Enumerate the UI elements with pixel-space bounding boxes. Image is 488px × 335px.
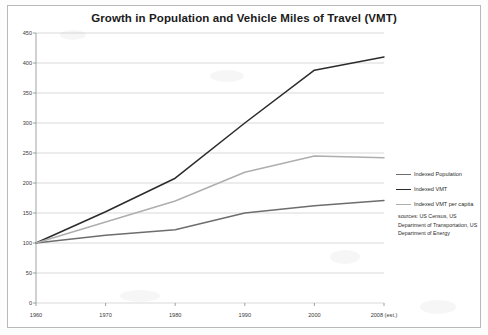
x-tick-label: 1980 bbox=[169, 312, 181, 318]
series-line-1 bbox=[36, 57, 384, 243]
y-tick-label: 50 bbox=[2, 270, 32, 276]
x-tick-label: 2000 bbox=[308, 312, 320, 318]
legend-color-swatch bbox=[396, 204, 411, 205]
legend-label: Indexed VMT per capita bbox=[414, 201, 473, 207]
y-tick-label: 400 bbox=[2, 60, 32, 66]
chart-legend: Indexed PopulationIndexed VMTIndexed VMT… bbox=[396, 170, 486, 215]
series-line-0 bbox=[36, 200, 384, 243]
legend-item: Indexed Population bbox=[396, 170, 486, 178]
y-tick-label: 200 bbox=[2, 180, 32, 186]
legend-label: Indexed VMT bbox=[414, 186, 447, 192]
y-tick-label: 100 bbox=[2, 240, 32, 246]
x-tick-label: 2008 (est.) bbox=[371, 312, 398, 318]
legend-color-swatch bbox=[396, 189, 411, 190]
y-tick-label: 350 bbox=[2, 90, 32, 96]
sources-note: sources: US Census, US Department of Tra… bbox=[398, 212, 480, 238]
series-lines bbox=[36, 33, 384, 303]
y-tick-label: 300 bbox=[2, 120, 32, 126]
chart-title: Growth in Population and Vehicle Miles o… bbox=[0, 12, 488, 24]
x-tick-label: 1960 bbox=[30, 312, 42, 318]
y-tick-label: 250 bbox=[2, 150, 32, 156]
legend-item: Indexed VMT per capita bbox=[396, 200, 486, 208]
plot-area bbox=[36, 33, 384, 303]
legend-color-swatch bbox=[396, 174, 411, 175]
chart-figure: Growth in Population and Vehicle Miles o… bbox=[0, 0, 488, 335]
y-tick-label: 0 bbox=[2, 300, 32, 306]
y-tick-label: 150 bbox=[2, 210, 32, 216]
x-tick-label: 1990 bbox=[239, 312, 251, 318]
series-line-2 bbox=[36, 156, 384, 243]
legend-label: Indexed Population bbox=[414, 171, 462, 177]
legend-item: Indexed VMT bbox=[396, 185, 486, 193]
x-tick-label: 1970 bbox=[99, 312, 111, 318]
y-tick-label: 450 bbox=[2, 30, 32, 36]
